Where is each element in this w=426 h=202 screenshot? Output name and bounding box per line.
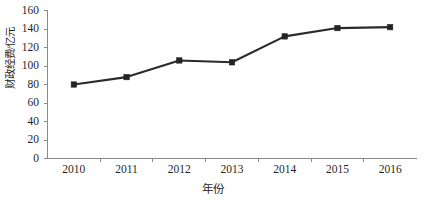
y-axis (44, 11, 48, 159)
data-point-marker (71, 82, 76, 87)
data-point-marker (124, 74, 129, 79)
data-point-marker (282, 34, 287, 39)
x-tick-label: 2014 (255, 164, 315, 176)
x-tick-marks (100, 159, 364, 163)
data-point-marker (335, 25, 340, 30)
data-point-marker (229, 60, 234, 65)
y-tick-label: 40 (0, 116, 39, 128)
x-tick-label: 2016 (360, 164, 420, 176)
line-chart: 160140120100806040200 201020112012201320… (0, 0, 426, 202)
x-tick-label: 2013 (202, 164, 262, 176)
x-tick-label: 2010 (44, 164, 104, 176)
x-tick-label: 2011 (97, 164, 157, 176)
x-axis (48, 159, 417, 163)
x-axis-title: 年份 (0, 183, 426, 196)
series-line-financial-funding (74, 27, 390, 84)
y-tick-marks (44, 11, 48, 159)
x-tick-label: 2012 (149, 164, 209, 176)
x-tick-label: 2015 (307, 164, 367, 176)
y-tick-label: 20 (0, 134, 39, 146)
y-tick-label: 0 (0, 153, 39, 165)
y-axis-title: 财政经费/亿元 (5, 15, 17, 101)
data-point-marker (387, 24, 392, 29)
data-point-marker (177, 58, 182, 63)
